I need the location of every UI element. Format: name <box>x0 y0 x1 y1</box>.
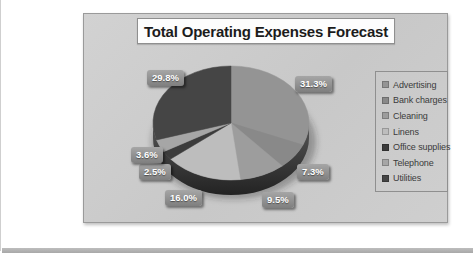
percent-label-utilities: 29.8% <box>147 70 184 86</box>
legend-label: Utilities <box>393 173 421 183</box>
legend-item-utilities: Utilities <box>382 173 447 183</box>
legend-item-bank-charges: Bank charges <box>382 95 447 105</box>
legend-item-office-supplies: Office supplies <box>382 142 447 152</box>
chart-title: Total Operating Expenses Forecast <box>137 18 395 44</box>
legend-label: Advertising <box>393 80 436 90</box>
legend-swatch-office-supplies <box>382 144 389 151</box>
legend-swatch-linens <box>382 128 389 135</box>
legend-item-telephone: Telephone <box>382 158 447 168</box>
page-bottom-edge-line <box>2 248 473 253</box>
legend-label: Linens <box>393 127 419 137</box>
legend: AdvertisingBank chargesCleaningLinensOff… <box>375 71 448 192</box>
legend-label: Bank charges <box>393 95 447 105</box>
percent-label-bank-charges: 7.3% <box>297 164 329 180</box>
legend-label: Telephone <box>393 158 434 168</box>
legend-swatch-utilities <box>382 175 389 182</box>
legend-swatch-bank-charges <box>382 97 389 104</box>
legend-item-linens: Linens <box>382 127 447 137</box>
percent-label-cleaning: 9.5% <box>262 192 294 208</box>
legend-swatch-advertising <box>382 81 389 88</box>
legend-item-advertising: Advertising <box>382 80 447 90</box>
legend-label: Office supplies <box>393 142 450 152</box>
legend-swatch-telephone <box>382 159 389 166</box>
percent-label-advertising: 31.3% <box>295 76 332 92</box>
percent-label-telephone: 3.6% <box>131 147 163 163</box>
page-left-edge-line <box>0 0 1 251</box>
legend-item-cleaning: Cleaning <box>382 111 447 121</box>
legend-label: Cleaning <box>393 111 428 121</box>
scanned-chart-page: Total Operating Expenses Forecast 31.3%7… <box>0 0 473 256</box>
chart-area: Total Operating Expenses Forecast 31.3%7… <box>83 13 448 223</box>
percent-label-office-supplies: 2.5% <box>139 164 171 180</box>
percent-label-linens: 16.0% <box>165 190 202 206</box>
legend-swatch-cleaning <box>382 112 389 119</box>
